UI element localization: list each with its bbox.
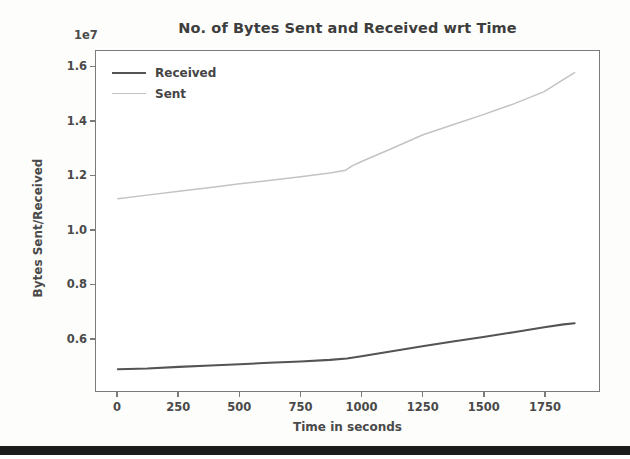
x-tick-label: 250 bbox=[166, 400, 190, 414]
y-tick-mark bbox=[90, 284, 95, 285]
legend-entry-sent: Sent bbox=[112, 83, 216, 104]
y-tick-label: 0.8 bbox=[47, 277, 87, 291]
y-tick-mark bbox=[90, 120, 95, 121]
y-tick-mark bbox=[90, 66, 95, 67]
matplotlib-figure: No. of Bytes Sent and Received wrt Time … bbox=[0, 0, 630, 448]
x-tick-label: 1250 bbox=[407, 400, 439, 414]
y-axis-label: Bytes Sent/Received bbox=[31, 128, 45, 328]
x-tick-label: 1500 bbox=[468, 400, 500, 414]
x-tick-label: 1750 bbox=[529, 400, 561, 414]
x-tick-label: 750 bbox=[288, 400, 312, 414]
scan-artifact-edge bbox=[0, 455, 630, 459]
x-tick-mark bbox=[483, 392, 484, 397]
x-tick-mark bbox=[116, 392, 117, 397]
x-tick-mark bbox=[239, 392, 240, 397]
chart-legend: Received Sent bbox=[104, 56, 228, 110]
y-tick-label: 1.0 bbox=[47, 223, 87, 237]
y-axis-offset-text: 1e7 bbox=[74, 28, 98, 42]
y-tick-label: 0.6 bbox=[47, 332, 87, 346]
x-tick-mark bbox=[422, 392, 423, 397]
legend-line-icon-received bbox=[112, 72, 146, 74]
x-tick-mark bbox=[361, 392, 362, 397]
page-title: No. of Bytes Sent and Received wrt Time bbox=[95, 20, 600, 36]
x-tick-label: 0 bbox=[113, 400, 121, 414]
line-series-received bbox=[118, 323, 575, 369]
y-tick-mark bbox=[90, 338, 95, 339]
x-tick-label: 500 bbox=[227, 400, 251, 414]
legend-label-received: Received bbox=[155, 66, 216, 80]
x-tick-label: 1000 bbox=[346, 400, 378, 414]
y-tick-label: 1.4 bbox=[47, 114, 87, 128]
x-tick-mark bbox=[177, 392, 178, 397]
x-axis-label: Time in seconds bbox=[95, 420, 600, 434]
x-tick-mark bbox=[300, 392, 301, 397]
y-tick-mark bbox=[90, 175, 95, 176]
legend-line-icon-sent bbox=[112, 93, 146, 94]
y-tick-label: 1.6 bbox=[47, 59, 87, 73]
legend-label-sent: Sent bbox=[155, 87, 186, 101]
legend-entry-received: Received bbox=[112, 62, 216, 83]
y-tick-mark bbox=[90, 229, 95, 230]
scan-artifact-band bbox=[0, 446, 630, 455]
y-tick-label: 1.2 bbox=[47, 168, 87, 182]
x-tick-mark bbox=[544, 392, 545, 397]
